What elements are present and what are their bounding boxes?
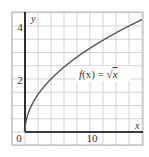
x-axis-label: x (134, 120, 140, 131)
x-tick-label-10: 10 (87, 132, 99, 144)
y-tick-label-4: 4 (17, 21, 23, 33)
y-tick-label-2: 2 (17, 74, 23, 86)
radicand: x (112, 68, 118, 80)
sqrt-function-chart: 4 2 0 10 y x f(x) = √x (0, 0, 149, 157)
origin-label: 0 (16, 132, 22, 144)
function-argument-equals: (x) = (82, 68, 107, 81)
function-label: f(x) = √x (79, 68, 118, 81)
y-axis-label: y (30, 13, 36, 24)
